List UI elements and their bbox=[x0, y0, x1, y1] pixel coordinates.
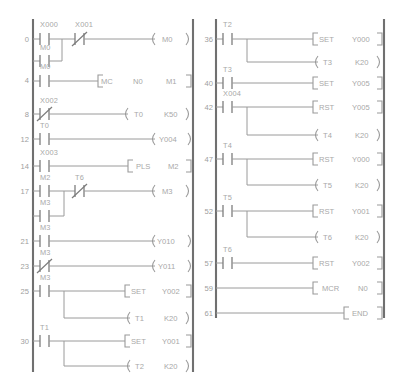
rung-step-8: 8 X002 T0 K50 bbox=[25, 96, 189, 121]
step-number: 40 bbox=[205, 79, 213, 88]
coil-output-y011: Y011 bbox=[158, 262, 175, 271]
rung-step-23: 23 M3 Y011 bbox=[21, 248, 191, 273]
coil-output-t6: T6 bbox=[323, 233, 332, 242]
step-number: 12 bbox=[21, 135, 29, 144]
instruction-box-right-bracket bbox=[377, 153, 382, 165]
instruction-box-left-bracket bbox=[128, 160, 133, 172]
step-number: 21 bbox=[21, 237, 29, 246]
operand-m1: M1 bbox=[166, 77, 177, 86]
preset-k20: K20 bbox=[164, 314, 178, 323]
instruction-box-left-bracket bbox=[313, 77, 318, 89]
preset-k20: K20 bbox=[355, 181, 369, 190]
operand-n0: N0 bbox=[358, 284, 368, 293]
coil-output-t3: T3 bbox=[323, 58, 332, 67]
step-number: 57 bbox=[205, 259, 213, 268]
step-number: 25 bbox=[21, 287, 29, 296]
rung-step-59: 59 MCR N0 bbox=[205, 282, 382, 294]
instruction-box-right-bracket bbox=[377, 101, 382, 113]
step-number: 8 bbox=[25, 110, 29, 119]
instruction-box-right-bracket bbox=[377, 77, 382, 89]
operand-y000: Y000 bbox=[352, 155, 370, 164]
rung-step-52: 52 T5 RST Y001 T6 K20 bbox=[205, 193, 382, 243]
instruction-set: SET bbox=[319, 35, 334, 44]
coil-t0-right-arc bbox=[186, 108, 189, 120]
ladder-diagram-canvas: 0 X000 X001 M0 M0 4 M0 MC bbox=[0, 0, 399, 391]
instruction-box-left-bracket bbox=[313, 257, 318, 269]
instruction-rst: RST bbox=[319, 207, 335, 216]
coil-t3-right-arc bbox=[377, 56, 380, 68]
coil-output-t0: T0 bbox=[134, 110, 143, 119]
coil-t1-right-arc bbox=[186, 312, 189, 324]
instruction-box-right-bracket bbox=[377, 257, 382, 269]
contact-label-x002: X002 bbox=[40, 96, 58, 105]
rung-step-30: 30 T1 SET Y001 T2 K20 bbox=[21, 323, 191, 372]
instruction-box-right-bracket bbox=[377, 282, 382, 294]
operand-m2: M2 bbox=[168, 162, 179, 171]
contact-label-m0: M0 bbox=[40, 62, 51, 71]
step-number: 42 bbox=[205, 103, 213, 112]
instruction-mcr: MCR bbox=[322, 284, 340, 293]
step-number: 17 bbox=[21, 187, 29, 196]
rung-step-42: 42 X004 RST Y005 T4 K20 bbox=[205, 89, 382, 141]
step-number: 4 bbox=[25, 76, 29, 85]
preset-k20: K20 bbox=[355, 58, 369, 67]
step-number: 30 bbox=[21, 337, 29, 346]
instruction-box-right-bracket bbox=[186, 75, 191, 87]
rung-step-36: 36 T2 SET Y000 T3 K20 bbox=[205, 20, 382, 68]
rung-step-40: 40 T3 SET Y005 bbox=[205, 65, 382, 89]
preset-k50: K50 bbox=[164, 110, 178, 119]
operand-y002: Y002 bbox=[162, 287, 180, 296]
instruction-box-left-bracket bbox=[125, 335, 130, 347]
contact-label-t5: T5 bbox=[223, 193, 232, 202]
contact-label-m3: M3 bbox=[40, 273, 51, 282]
coil-t5-right-arc bbox=[377, 179, 380, 191]
step-number: 59 bbox=[205, 284, 213, 293]
operand-y001: Y001 bbox=[162, 337, 180, 346]
step-number: 14 bbox=[21, 162, 29, 171]
rung-step-61: 61 END bbox=[205, 307, 382, 319]
instruction-mc: MC bbox=[101, 77, 113, 86]
contact-label-t4: T4 bbox=[223, 141, 232, 150]
coil-output-y010: Y010 bbox=[157, 237, 175, 246]
operand-n0: N0 bbox=[133, 77, 143, 86]
coil-output-y004: Y004 bbox=[159, 135, 177, 144]
ladder-svg: 0 X000 X001 M0 M0 4 M0 MC bbox=[0, 0, 399, 391]
contact-label-m3: M3 bbox=[40, 248, 51, 257]
contact-label-m2: M2 bbox=[40, 173, 51, 182]
rung-step-4: 4 M0 MC N0 M1 bbox=[25, 62, 191, 87]
coil-output-t2: T2 bbox=[135, 362, 144, 371]
preset-k20: K20 bbox=[164, 362, 178, 371]
rung-step-57: 57 T6 RST Y002 bbox=[205, 245, 382, 269]
contact-label-t2: T2 bbox=[223, 20, 232, 29]
instruction-box-left-bracket bbox=[313, 205, 318, 217]
branch-label-m0: M0 bbox=[40, 43, 51, 52]
contact-label-x000: X000 bbox=[40, 20, 58, 29]
branch-label-m3: M3 bbox=[40, 198, 51, 207]
coil-t4-right-arc bbox=[377, 129, 380, 141]
contact-label-t1: T1 bbox=[40, 323, 49, 332]
operand-y000: Y000 bbox=[352, 35, 370, 44]
instruction-box-right-bracket bbox=[377, 33, 382, 45]
instruction-box-right-bracket bbox=[186, 285, 191, 297]
instruction-box-left-bracket bbox=[344, 307, 349, 319]
rung-step-12: 12 T0 Y004 bbox=[21, 121, 191, 145]
preset-k20: K20 bbox=[355, 233, 369, 242]
instruction-pls: PLS bbox=[136, 162, 150, 171]
coil-m0-right-arc bbox=[186, 33, 189, 45]
operand-y005: Y005 bbox=[352, 79, 370, 88]
instruction-rst: RST bbox=[319, 155, 335, 164]
rung-step-47: 47 T4 RST Y000 T5 K20 bbox=[205, 141, 382, 191]
instruction-box-left-bracket bbox=[313, 282, 318, 294]
step-number: 0 bbox=[25, 35, 29, 44]
coil-y004-right-arc bbox=[188, 133, 191, 145]
rung-step-14: 14 X003 PLS M2 bbox=[21, 148, 191, 172]
contact-label-x003: X003 bbox=[40, 148, 58, 157]
contact-label-t0: T0 bbox=[40, 121, 49, 130]
instruction-box-right-bracket bbox=[186, 160, 191, 172]
coil-output-t4: T4 bbox=[323, 131, 332, 140]
instruction-set: SET bbox=[131, 287, 146, 296]
instruction-rst: RST bbox=[319, 103, 335, 112]
instruction-set: SET bbox=[131, 337, 146, 346]
instruction-end: END bbox=[352, 309, 369, 318]
rung-step-17: 17 M2 T6 M3 M3 bbox=[21, 173, 189, 222]
